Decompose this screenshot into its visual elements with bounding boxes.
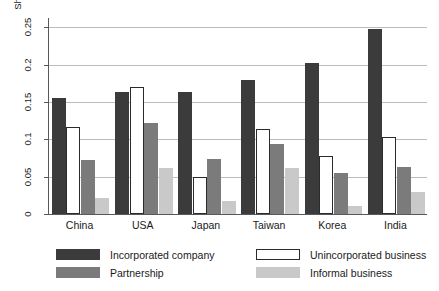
y-axis-line: [48, 18, 49, 215]
legend-item: Incorporated company: [56, 248, 214, 261]
bar: [52, 98, 66, 214]
chart-legend: Incorporated companyUnincorporated busin…: [56, 248, 426, 282]
y-axis-tick-label: 0.2: [22, 51, 34, 79]
bar-group: [115, 20, 173, 214]
y-axis-tick-label: 0.1: [22, 125, 34, 153]
bar: [382, 137, 396, 214]
bar-group: [368, 20, 426, 214]
legend-label: Partnership: [110, 267, 164, 279]
bar: [411, 192, 425, 214]
bar: [368, 29, 382, 214]
bar: [256, 129, 270, 214]
bar-group: [241, 20, 299, 214]
bar: [193, 177, 207, 214]
y-axis-tick-label: 0.25: [22, 13, 34, 41]
bar: [285, 168, 299, 214]
x-axis-label: China: [48, 219, 111, 231]
bar: [144, 123, 158, 214]
legend-swatch: [56, 249, 100, 260]
x-axis-label: Korea: [301, 219, 364, 231]
bar-chart: Share that started a new organization 00…: [0, 0, 439, 291]
legend-label: Unincorporated business: [310, 249, 426, 261]
x-axis-label: USA: [111, 219, 174, 231]
bar: [222, 201, 236, 214]
legend-item: Partnership: [56, 266, 164, 279]
bar: [81, 160, 95, 214]
y-axis-tick-label: 0.05: [22, 163, 34, 191]
bar: [95, 198, 109, 214]
bar: [241, 80, 255, 214]
bar: [319, 156, 333, 214]
bar: [178, 92, 192, 214]
x-axis-line: [48, 214, 427, 215]
bar: [397, 167, 411, 214]
bar: [334, 173, 348, 214]
bar: [130, 87, 144, 214]
bar: [305, 63, 319, 214]
bar: [66, 127, 80, 214]
legend-swatch: [56, 267, 100, 278]
plot-area: 00.050.10.150.20.25: [48, 20, 427, 215]
bar: [159, 168, 173, 214]
bar: [348, 206, 362, 214]
legend-swatch: [256, 267, 300, 278]
bar-group: [178, 20, 236, 214]
bar-group: [52, 20, 110, 214]
legend-label: Informal business: [310, 267, 392, 279]
legend-label: Incorporated company: [110, 249, 214, 261]
bar: [270, 144, 284, 214]
legend-swatch: [256, 249, 300, 260]
x-axis-label: Taiwan: [238, 219, 301, 231]
x-axis-label: India: [364, 219, 427, 231]
y-axis-tick-label: 0: [22, 200, 34, 228]
legend-item: Informal business: [256, 266, 392, 279]
bar: [115, 92, 129, 214]
bar-group: [305, 20, 363, 214]
x-axis-label: Japan: [174, 219, 237, 231]
legend-item: Unincorporated business: [256, 248, 426, 261]
bar: [207, 159, 221, 214]
y-axis-tick-label: 0.15: [22, 88, 34, 116]
